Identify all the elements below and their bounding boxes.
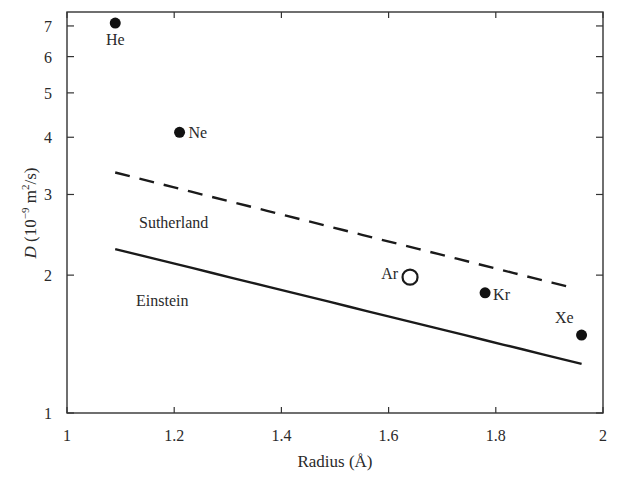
- sutherland-label: Sutherland: [139, 214, 208, 231]
- y-tick-label: 6: [44, 49, 52, 66]
- point-label-kr: Kr: [493, 286, 511, 303]
- y-tick-label: 2: [44, 267, 52, 284]
- point-ar: [403, 270, 418, 285]
- model-curves: [115, 173, 581, 364]
- plot-frame: [67, 12, 603, 413]
- y-tick-label: 1: [44, 405, 52, 422]
- x-tick-label: 2: [599, 427, 607, 444]
- y-axis-label: D (10−9 m2/s): [19, 168, 40, 260]
- annotations: HeNeArKrXeSutherlandEinstein: [106, 31, 574, 326]
- einstein-label: Einstein: [136, 292, 188, 309]
- point-label-he: He: [106, 31, 125, 48]
- point-ne: [174, 127, 185, 138]
- point-xe: [576, 330, 587, 341]
- diffusion-vs-radius-chart: 11.21.41.61.821234567 HeNeArKrXeSutherla…: [0, 0, 620, 484]
- x-tick-label: 1.2: [164, 427, 184, 444]
- point-label-xe: Xe: [555, 309, 574, 326]
- x-tick-label: 1: [63, 427, 71, 444]
- y-tick-label: 7: [44, 18, 52, 35]
- x-axis-label: Radius (Å): [297, 452, 372, 471]
- point-kr: [480, 287, 491, 298]
- x-tick-label: 1.8: [486, 427, 506, 444]
- plot-axes: 11.21.41.61.821234567: [44, 12, 607, 444]
- y-tick-label: 3: [44, 186, 52, 203]
- y-tick-label: 4: [44, 129, 52, 146]
- x-tick-label: 1.4: [271, 427, 291, 444]
- point-label-ne: Ne: [189, 124, 208, 141]
- y-tick-label: 5: [44, 85, 52, 102]
- point-label-ar: Ar: [381, 265, 399, 282]
- x-tick-label: 1.6: [379, 427, 399, 444]
- point-he: [110, 18, 121, 29]
